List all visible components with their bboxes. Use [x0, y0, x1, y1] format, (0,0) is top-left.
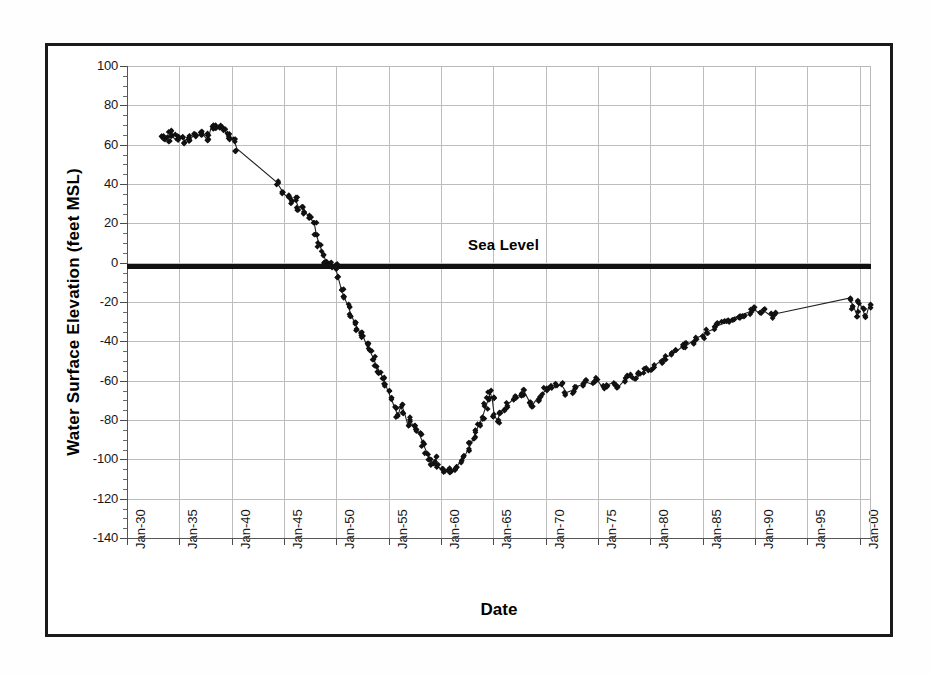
data-point-marker	[572, 386, 578, 392]
data-point-marker	[570, 391, 576, 397]
data-point-marker	[321, 252, 327, 258]
data-point-marker	[592, 379, 598, 385]
data-point-marker	[572, 384, 578, 390]
data-point-marker	[484, 395, 490, 401]
data-point-marker	[601, 386, 607, 392]
data-point-marker	[186, 138, 192, 144]
data-point-marker	[472, 428, 478, 434]
gridline-horizontal	[127, 105, 871, 106]
data-point-marker	[359, 334, 365, 340]
data-point-marker	[424, 450, 430, 456]
data-point-marker	[651, 362, 657, 368]
gridline-horizontal	[127, 184, 871, 185]
sea-level-line	[127, 264, 871, 269]
data-point-marker	[521, 392, 527, 398]
data-point-marker	[358, 330, 364, 336]
data-point-marker	[354, 326, 360, 332]
data-point-marker	[414, 427, 420, 433]
gridline-vertical	[389, 66, 390, 538]
data-point-marker	[663, 353, 669, 359]
data-point-marker	[209, 124, 215, 130]
data-point-marker	[216, 124, 222, 130]
data-point-marker	[630, 375, 636, 381]
data-point-marker	[166, 139, 172, 145]
data-point-marker	[307, 215, 313, 221]
y-axis-tick-label: 40	[104, 176, 118, 191]
data-point-marker	[481, 403, 487, 409]
data-point-marker	[580, 383, 586, 389]
data-point-marker	[615, 384, 621, 390]
data-point-marker	[412, 423, 418, 429]
plot-axis-x	[127, 538, 871, 539]
data-point-marker	[211, 122, 217, 128]
data-point-marker	[233, 148, 239, 154]
data-point-marker	[528, 403, 534, 409]
data-point-marker	[213, 122, 219, 128]
data-point-marker	[673, 347, 679, 353]
data-point-marker	[286, 194, 292, 200]
data-point-marker	[758, 310, 764, 316]
data-point-marker	[233, 148, 239, 154]
x-axis-title: Date	[127, 600, 871, 620]
data-point-marker	[320, 253, 326, 259]
data-point-marker	[737, 313, 743, 319]
data-point-marker	[166, 129, 172, 135]
data-point-marker	[771, 312, 777, 318]
y-axis-tick-label: 20	[104, 215, 118, 230]
gridline-vertical	[336, 66, 337, 538]
data-point-marker	[378, 369, 384, 375]
data-point-marker	[530, 403, 536, 409]
data-point-marker	[186, 135, 192, 141]
data-point-marker	[340, 293, 346, 299]
data-point-marker	[370, 357, 376, 363]
data-point-marker	[538, 394, 544, 400]
x-axis-tick-label: Jan-40	[238, 509, 253, 549]
data-point-marker	[536, 397, 542, 403]
data-point-marker	[477, 421, 483, 427]
data-point-marker	[341, 294, 347, 300]
data-point-marker	[224, 130, 230, 136]
data-point-marker	[730, 317, 736, 323]
data-point-marker	[502, 408, 508, 414]
data-point-marker	[412, 423, 418, 429]
plot-border-right	[870, 66, 871, 539]
data-point-marker	[546, 385, 552, 391]
data-point-marker	[847, 296, 853, 302]
data-point-marker	[348, 313, 354, 319]
y-axis-tick-label: 80	[104, 97, 118, 112]
data-point-marker	[398, 404, 404, 410]
data-point-marker	[512, 393, 518, 399]
data-point-marker	[425, 452, 431, 458]
data-point-marker	[193, 131, 199, 137]
data-point-marker	[613, 382, 619, 388]
data-point-marker	[199, 128, 205, 134]
data-point-marker	[288, 201, 294, 207]
data-point-marker	[573, 384, 579, 390]
x-axis-tick-label: Jan-65	[499, 509, 514, 549]
data-point-marker	[204, 137, 210, 143]
data-point-marker	[180, 135, 186, 141]
y-axis-tick	[120, 341, 127, 342]
plot-axis-y	[127, 66, 128, 539]
y-axis-tick-label: -140	[93, 530, 118, 545]
data-point-marker	[221, 126, 227, 132]
data-point-marker	[458, 460, 464, 466]
data-point-marker	[519, 391, 525, 397]
data-point-marker	[511, 396, 517, 402]
data-point-marker	[669, 351, 675, 357]
y-axis-tick	[120, 105, 127, 106]
gridline-vertical	[284, 66, 285, 538]
data-point-marker	[502, 407, 508, 413]
gridline-vertical	[232, 66, 233, 538]
data-point-marker	[289, 198, 295, 204]
data-point-marker	[411, 423, 417, 429]
data-point-marker	[308, 214, 314, 220]
data-point-marker	[714, 320, 720, 326]
data-point-marker	[726, 319, 732, 325]
data-point-marker	[673, 348, 679, 354]
x-axis-tick-label: Jan-80	[656, 509, 671, 549]
data-point-marker	[400, 410, 406, 416]
data-point-marker	[358, 332, 364, 338]
data-point-marker	[314, 244, 320, 250]
data-point-marker	[452, 467, 458, 473]
